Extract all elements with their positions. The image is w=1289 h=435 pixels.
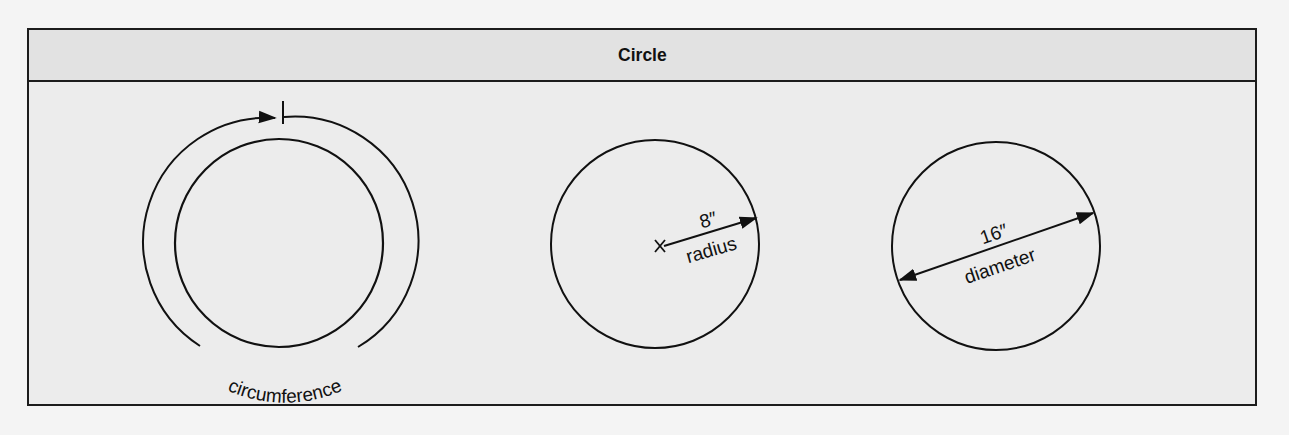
inner-circle <box>175 139 383 347</box>
diameter-label: diameter <box>962 244 1039 288</box>
circle-diagram: circumference 8″ radius 16″ diameter <box>0 0 1289 435</box>
circumference-arc-right <box>284 117 418 347</box>
radius-measure: 8″ <box>697 207 720 232</box>
center-mark-icon <box>655 240 665 252</box>
circumference-label: circumference <box>225 375 344 407</box>
diameter-figure: 16″ diameter <box>892 142 1100 350</box>
circumference-figure: circumference <box>143 101 418 407</box>
circumference-arrow-arc <box>143 118 275 346</box>
radius-figure: 8″ radius <box>551 140 759 348</box>
